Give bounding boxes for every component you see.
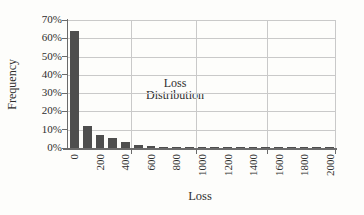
plot-area: 0%10%20%30%40%50%60%70%02004006008001000… (68, 20, 336, 148)
x-tick-label: 1600 (273, 154, 286, 176)
horizontal-gridline (68, 75, 336, 76)
y-axis-tick (62, 129, 67, 130)
x-axis-tick (267, 149, 268, 154)
horizontal-gridline (68, 38, 336, 39)
x-axis-line (63, 148, 337, 150)
y-tick-label: 10% (20, 123, 62, 136)
y-tick-label: 20% (20, 104, 62, 117)
y-axis-tick (62, 74, 67, 75)
y-axis-tick (62, 56, 67, 57)
x-tick-label: 800 (170, 154, 183, 171)
y-axis-tick (62, 20, 67, 21)
x-tick-label: 2000 (324, 154, 337, 176)
vertical-gridline (267, 20, 268, 148)
horizontal-gridline (68, 93, 336, 94)
histogram-bar (108, 138, 117, 148)
y-tick-label: 70% (20, 13, 62, 26)
y-tick-label: 0% (20, 141, 62, 154)
y-axis-tick (62, 93, 67, 94)
y-axis-line (67, 19, 68, 150)
x-axis-title: Loss (100, 189, 300, 204)
horizontal-gridline (68, 57, 336, 58)
histogram-bar (83, 126, 92, 148)
x-tick-label: 1400 (247, 154, 260, 176)
x-tick-label: 0 (68, 154, 81, 160)
y-tick-label: 50% (20, 50, 62, 63)
vertical-gridline (196, 20, 197, 148)
horizontal-gridline (68, 130, 336, 131)
y-axis-title: Frequency (5, 59, 19, 110)
loss-distribution-chart: Frequency Loss Distribution 0%10%20%30%4… (0, 0, 364, 215)
y-axis-tick (62, 111, 67, 112)
x-tick-label: 600 (145, 154, 158, 171)
vertical-gridline (131, 20, 132, 148)
vertical-gridline (335, 20, 336, 148)
x-tick-label: 1200 (222, 154, 235, 176)
y-tick-label: 40% (20, 68, 62, 81)
histogram-bar (70, 31, 79, 148)
x-tick-label: 1000 (196, 154, 209, 176)
y-tick-label: 60% (20, 31, 62, 44)
x-tick-label: 1800 (298, 154, 311, 176)
histogram-bar (96, 135, 105, 148)
horizontal-gridline (68, 20, 336, 21)
x-tick-label: 200 (94, 154, 107, 171)
horizontal-gridline (68, 111, 336, 112)
y-axis-tick (62, 38, 67, 39)
y-tick-label: 30% (20, 86, 62, 99)
x-tick-label: 400 (119, 154, 132, 171)
y-axis-tick (62, 148, 67, 149)
